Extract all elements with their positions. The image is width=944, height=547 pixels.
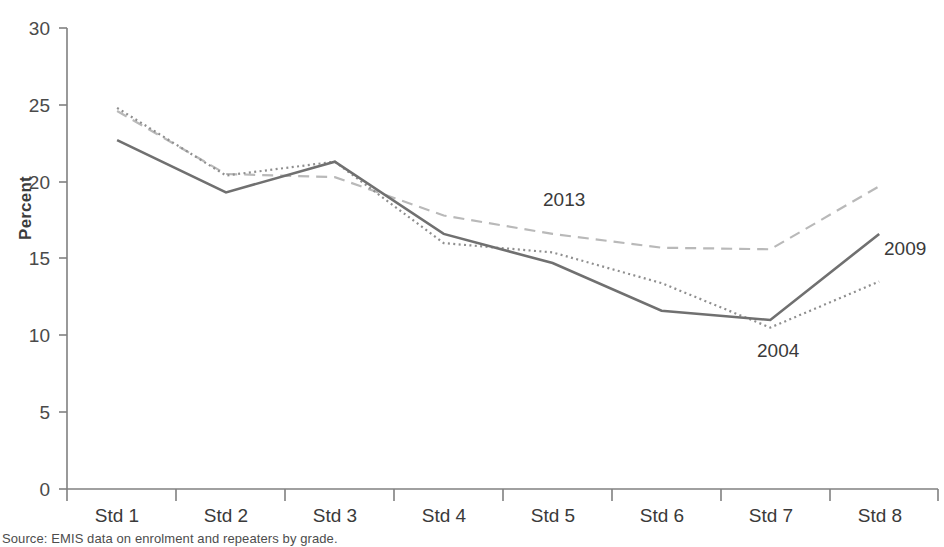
y-tick-label-5: 5 xyxy=(8,403,50,422)
y-tick-label-30: 30 xyxy=(8,19,50,38)
series-line-2013 xyxy=(117,111,879,249)
x-tick-label-std-4: Std 4 xyxy=(404,506,484,525)
series-annotation-2004: 2004 xyxy=(757,341,799,360)
chart-axes xyxy=(59,28,938,501)
x-tick-label-std-2: Std 2 xyxy=(186,506,266,525)
series-line-2004 xyxy=(117,108,879,328)
y-tick-label-10: 10 xyxy=(8,326,50,345)
series-annotation-2009: 2009 xyxy=(884,239,926,258)
x-tick-label-std-7: Std 7 xyxy=(731,506,811,525)
x-tick-label-std-8: Std 8 xyxy=(840,506,920,525)
x-tick-label-std-3: Std 3 xyxy=(295,506,375,525)
chart-plot-area xyxy=(0,0,944,547)
x-axis-ticks xyxy=(67,489,938,501)
x-tick-label-std-1: Std 1 xyxy=(77,506,157,525)
series-line-2009 xyxy=(117,140,879,320)
source-note: Source: EMIS data on enrolment and repea… xyxy=(2,531,338,546)
y-tick-label-20: 20 xyxy=(8,173,50,192)
repetition-rate-line-chart: Percent 0 5 10 15 20 25 30 Std 1 Std 2 S… xyxy=(0,0,944,547)
series-annotation-2013: 2013 xyxy=(543,190,585,209)
x-tick-label-std-6: Std 6 xyxy=(622,506,702,525)
chart-series-group xyxy=(117,108,879,328)
y-tick-label-0: 0 xyxy=(8,480,50,499)
x-tick-label-std-5: Std 5 xyxy=(513,506,593,525)
y-axis-ticks xyxy=(59,28,67,489)
y-tick-label-25: 25 xyxy=(8,96,50,115)
y-tick-label-15: 15 xyxy=(8,249,50,268)
